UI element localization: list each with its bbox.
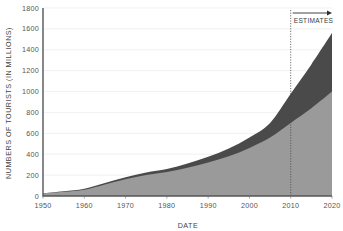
- y-tick-label: 600: [26, 129, 39, 138]
- y-axis-title: NUMBERS OF TOURISTS (IN MILLIONS): [4, 27, 13, 179]
- x-tick-label: 1970: [117, 201, 134, 210]
- y-tick-label: 1000: [22, 87, 39, 96]
- x-tick-label: 2000: [241, 201, 258, 210]
- y-tick-label: 200: [26, 171, 39, 180]
- x-tick-label: 1980: [158, 201, 175, 210]
- y-tick-label: 1600: [22, 24, 39, 33]
- x-tick-label: 1990: [200, 201, 217, 210]
- y-tick-label: 1200: [22, 66, 39, 75]
- y-tick-label: 800: [26, 108, 39, 117]
- y-tick-label: 0: [35, 192, 39, 201]
- x-tick-label: 1950: [35, 201, 52, 210]
- y-tick-label: 1800: [22, 4, 39, 13]
- y-tick-label: 1400: [22, 45, 39, 54]
- y-tick-label: 400: [26, 150, 39, 159]
- estimates-label: ESTIMATES: [294, 17, 334, 24]
- x-axis-title: DATE: [178, 221, 199, 230]
- x-tick-label: 2020: [324, 201, 341, 210]
- tourism-area-chart: ESTIMATES 020040060080010001200140016001…: [0, 0, 343, 231]
- x-tick-label: 1960: [76, 201, 93, 210]
- chart-container: ESTIMATES 020040060080010001200140016001…: [0, 0, 343, 231]
- x-tick-label: 2010: [282, 201, 299, 210]
